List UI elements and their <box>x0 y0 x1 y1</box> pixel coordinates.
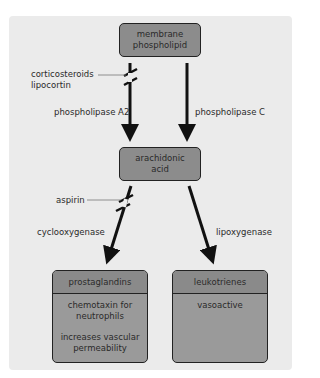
lox-label: lipoxygenase <box>216 227 272 238</box>
effect-vasoactive: vasoactive <box>173 300 267 311</box>
arachidonic-line1: arachidonic <box>135 153 184 164</box>
prostaglandins-effects: chemotaxin for neutrophils increases vas… <box>53 294 147 354</box>
plc-label: phospholipase C <box>195 107 265 118</box>
membrane-line2: phospholipid <box>133 40 187 51</box>
lox-arrow <box>189 186 211 256</box>
membrane-phospholipid-node: membrane phospholipid <box>119 23 201 57</box>
leukotrienes-node: leukotrienes vasoactive <box>172 270 268 363</box>
lipocortin-label: lipocortin <box>31 80 94 91</box>
corticosteroids-label: corticosteroids <box>31 69 94 80</box>
effect-vascular-permeability: increases vascular permeability <box>53 332 147 354</box>
arachidonic-line2: acid <box>151 164 169 175</box>
leukotrienes-effects: vasoactive <box>173 294 267 311</box>
prostaglandins-node: prostaglandins chemotaxin for neutrophil… <box>52 270 148 363</box>
cox-label: cyclooxygenase <box>37 227 105 238</box>
aspirin-label: aspirin <box>56 195 85 206</box>
prostaglandins-title: prostaglandins <box>53 271 147 294</box>
membrane-line1: membrane <box>137 29 184 40</box>
arachidonic-acid-node: arachidonic acid <box>119 147 201 181</box>
pla2-inhibitor-label: corticosteroids lipocortin <box>31 69 94 91</box>
pla2-label: phospholipase A2 <box>54 107 129 118</box>
effect-chemotaxin: chemotaxin for neutrophils <box>53 300 147 322</box>
pla2-inhibition-mark <box>124 69 137 85</box>
leukotrienes-title: leukotrienes <box>173 271 267 294</box>
